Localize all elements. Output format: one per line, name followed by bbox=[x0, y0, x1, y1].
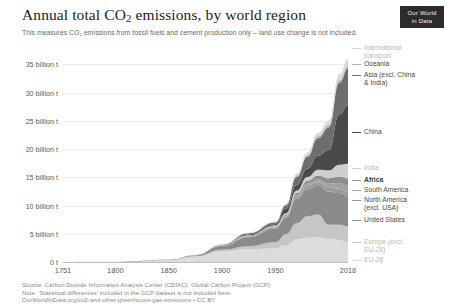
legend-swatch-icon bbox=[352, 75, 361, 77]
owid-logo[interactable]: Our World in Data bbox=[400, 6, 444, 28]
chart-container: Annual total CO2 emissions, by world reg… bbox=[0, 0, 449, 308]
legend-item-label: United States bbox=[364, 216, 405, 224]
legend-swatch-icon bbox=[352, 132, 361, 134]
legend-item[interactable]: Asia (excl. China & India) bbox=[352, 71, 415, 87]
legend-item[interactable]: Oceania bbox=[352, 60, 389, 68]
legend-item-label: India bbox=[364, 164, 379, 172]
gridline bbox=[63, 262, 348, 263]
owid-logo-line2: in Data bbox=[400, 17, 444, 25]
footer-source: Source: Carbon Dioxide Information Analy… bbox=[22, 281, 270, 289]
legend-item[interactable]: EU-28 bbox=[352, 256, 383, 264]
legend-item-label: China bbox=[364, 128, 382, 136]
y-axis-tick-label: 5 billion t bbox=[30, 229, 58, 238]
legend-swatch-icon bbox=[352, 242, 361, 244]
chart-legend: International transportOceaniaAsia (excl… bbox=[352, 44, 449, 266]
y-axis-tick-label: 30 billion t bbox=[26, 88, 58, 97]
legend-item-label: Europe (excl. EU-28) bbox=[364, 238, 404, 254]
x-axis-tick-label: 1850 bbox=[160, 266, 176, 275]
legend-item[interactable]: Africa bbox=[352, 176, 383, 184]
legend-swatch-icon bbox=[352, 200, 361, 202]
legend-item[interactable]: India bbox=[352, 164, 379, 172]
legend-swatch-icon bbox=[352, 64, 361, 66]
stacked-areas bbox=[63, 53, 348, 262]
legend-item[interactable]: United States bbox=[352, 216, 405, 224]
footer-note: Note: 'Statistical differences' included… bbox=[22, 289, 270, 297]
chart-footer: Source: Carbon Dioxide Information Analy… bbox=[22, 281, 270, 304]
chart-subtitle: This measures CO₂ emissions from fossil … bbox=[22, 28, 397, 38]
legend-swatch-icon bbox=[352, 220, 361, 222]
owid-logo-line1: Our World bbox=[400, 9, 444, 17]
area-band bbox=[63, 237, 348, 262]
legend-swatch-icon bbox=[352, 48, 361, 50]
chart-header: Annual total CO2 emissions, by world reg… bbox=[22, 6, 397, 38]
legend-item[interactable]: Europe (excl. EU-28) bbox=[352, 238, 404, 254]
legend-swatch-icon bbox=[352, 180, 361, 182]
legend-item[interactable]: International transport bbox=[352, 44, 401, 60]
x-axis-tick-label: 1900 bbox=[214, 266, 230, 275]
legend-item-label: North America (excl. USA) bbox=[364, 196, 407, 212]
title-subscript: 2 bbox=[126, 12, 132, 24]
legend-item-label: South America bbox=[364, 186, 408, 194]
legend-item[interactable]: South America bbox=[352, 186, 408, 194]
x-axis-tick-label: 1950 bbox=[267, 266, 283, 275]
x-axis-tick-label: 1751 bbox=[55, 266, 71, 275]
area-series-svg bbox=[63, 53, 348, 262]
y-axis-tick-label: 35 billion t bbox=[26, 60, 58, 69]
legend-item-label: Asia (excl. China & India) bbox=[364, 71, 415, 87]
legend-swatch-icon bbox=[352, 168, 361, 170]
legend-item-label: Africa bbox=[364, 176, 383, 184]
footer-url[interactable]: OurWorldInData.org/co2-and-other-greenho… bbox=[22, 296, 270, 304]
x-axis-tick-label: 1800 bbox=[107, 266, 123, 275]
legend-item-label: International transport bbox=[364, 44, 401, 60]
title-main: Annual total CO bbox=[22, 6, 126, 23]
legend-swatch-icon bbox=[352, 190, 361, 192]
y-axis-tick-label: 20 billion t bbox=[26, 145, 58, 154]
page-title: Annual total CO2 emissions, by world reg… bbox=[22, 6, 397, 25]
y-axis-tick-label: 15 billion t bbox=[26, 173, 58, 182]
title-rest: emissions, by world region bbox=[132, 6, 306, 23]
legend-item-label: Oceania bbox=[364, 60, 389, 68]
y-axis-tick-label: 25 billion t bbox=[26, 116, 58, 125]
y-axis-tick-label: 10 billion t bbox=[26, 201, 58, 210]
legend-item[interactable]: North America (excl. USA) bbox=[352, 196, 407, 212]
legend-swatch-icon bbox=[352, 260, 361, 262]
legend-item-label: EU-28 bbox=[364, 256, 383, 264]
x-axis-tick-label: 2018 bbox=[340, 266, 356, 275]
legend-item[interactable]: China bbox=[352, 128, 382, 136]
plot-area: 0 t5 billion t10 billion t15 billion t20… bbox=[63, 53, 348, 262]
